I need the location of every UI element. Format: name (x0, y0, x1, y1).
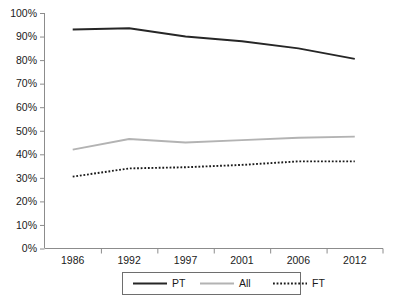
legend-label-all: All (239, 277, 251, 289)
y-tick-label: 60% (16, 101, 37, 113)
x-tick-label: 1992 (117, 254, 141, 266)
y-tick-label: 10% (16, 219, 37, 231)
y-tick-label: 30% (16, 172, 37, 184)
y-tick-label: 100% (10, 7, 37, 19)
y-tick-label: 50% (16, 125, 37, 137)
chart-background (0, 0, 396, 299)
x-tick-label: 1997 (174, 254, 198, 266)
y-tick-label: 20% (16, 195, 37, 207)
line-chart: 0%10%20%30%40%50%60%70%80%90%100% 198619… (0, 0, 396, 299)
y-tick-label: 0% (22, 242, 37, 254)
y-tick-label: 90% (16, 30, 37, 42)
x-tick-label: 1986 (61, 254, 85, 266)
legend-label-pt: PT (172, 277, 186, 289)
x-tick-label: 2012 (343, 254, 367, 266)
x-tick-label: 2001 (230, 254, 254, 266)
x-tick-label: 2006 (287, 254, 311, 266)
y-tick-label: 70% (16, 77, 37, 89)
legend-label-ft: FT (312, 277, 325, 289)
y-tick-label: 40% (16, 148, 37, 160)
chart-legend: PTAllFT (123, 273, 326, 295)
y-tick-label: 80% (16, 54, 37, 66)
